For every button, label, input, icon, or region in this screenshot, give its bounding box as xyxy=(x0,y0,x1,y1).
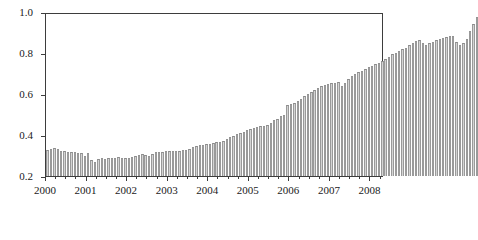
bar xyxy=(351,76,353,176)
bar xyxy=(361,71,363,176)
x-tick-minor xyxy=(258,177,259,179)
bar xyxy=(57,149,59,176)
y-tick-label: 0.8 xyxy=(7,48,33,59)
bar xyxy=(337,82,339,176)
bar xyxy=(229,137,231,176)
bar xyxy=(205,144,207,176)
bar xyxy=(286,105,288,176)
bar xyxy=(175,151,177,176)
bar xyxy=(324,85,326,176)
bar xyxy=(307,94,309,176)
bar xyxy=(94,162,96,176)
bar xyxy=(388,57,390,176)
x-tick-minor xyxy=(157,177,158,179)
bar xyxy=(371,66,373,176)
bar xyxy=(168,151,170,176)
bar xyxy=(222,141,224,176)
bar xyxy=(124,158,126,176)
y-tick xyxy=(41,54,45,55)
bar xyxy=(452,36,454,176)
bar xyxy=(226,139,228,176)
bar xyxy=(412,43,414,176)
bar xyxy=(313,90,315,177)
bar xyxy=(283,115,285,176)
bar xyxy=(354,74,356,177)
x-tick-minor xyxy=(238,177,239,179)
y-tick-label: 0.2 xyxy=(7,171,33,182)
bar xyxy=(131,157,133,176)
bar xyxy=(185,150,187,176)
bar xyxy=(310,92,312,176)
x-tick-minor xyxy=(319,177,320,179)
x-tick-minor xyxy=(146,177,147,179)
bar xyxy=(121,158,123,176)
x-tick-label: 2005 xyxy=(231,185,265,196)
bar xyxy=(67,152,69,176)
bar xyxy=(50,149,52,176)
bar xyxy=(172,151,174,176)
y-tick-label: 0.6 xyxy=(7,89,33,100)
bar xyxy=(384,59,386,176)
bar xyxy=(263,126,265,176)
bar xyxy=(104,159,106,176)
bar xyxy=(253,128,255,176)
x-tick-label: 2002 xyxy=(109,185,143,196)
x-tick-minor xyxy=(309,177,310,179)
bar xyxy=(381,61,383,176)
x-tick-label: 2007 xyxy=(312,185,346,196)
bar xyxy=(246,130,248,176)
bar xyxy=(469,31,471,176)
bar xyxy=(347,79,349,176)
bar xyxy=(209,144,211,176)
bar xyxy=(155,152,157,176)
bar xyxy=(425,45,427,176)
bar xyxy=(243,132,245,176)
x-tick-major xyxy=(329,177,330,181)
x-tick-minor xyxy=(228,177,229,179)
bar xyxy=(114,158,116,176)
bar xyxy=(317,88,319,176)
bar xyxy=(148,156,150,176)
bar xyxy=(53,148,55,176)
x-tick-minor xyxy=(55,177,56,179)
bar xyxy=(111,158,113,176)
x-tick-major xyxy=(126,177,127,181)
x-tick-minor xyxy=(278,177,279,179)
bar xyxy=(439,39,441,176)
x-tick-minor xyxy=(339,177,340,179)
x-tick-minor xyxy=(349,177,350,179)
bar xyxy=(455,42,457,176)
bar xyxy=(374,64,376,176)
x-tick-minor xyxy=(299,177,300,179)
bar xyxy=(344,83,346,176)
bar xyxy=(445,37,447,176)
bar xyxy=(70,152,72,176)
bar xyxy=(138,155,140,176)
bar xyxy=(422,43,424,176)
bar xyxy=(46,150,48,176)
bar xyxy=(428,43,430,176)
x-tick-minor xyxy=(116,177,117,179)
bar xyxy=(418,40,420,176)
bar xyxy=(462,43,464,176)
bar xyxy=(364,69,366,176)
x-tick-label: 2003 xyxy=(150,185,184,196)
bar xyxy=(341,86,343,176)
bar xyxy=(117,157,119,176)
bar xyxy=(60,151,62,176)
bar xyxy=(158,152,160,176)
bar xyxy=(249,129,251,176)
bar xyxy=(101,158,103,176)
bar xyxy=(107,158,109,176)
bar xyxy=(84,156,86,177)
bar xyxy=(77,153,79,176)
bar xyxy=(405,48,407,176)
x-tick-major xyxy=(45,177,46,181)
x-tick-major xyxy=(207,177,208,181)
bar xyxy=(134,156,136,176)
x-tick-minor xyxy=(136,177,137,179)
y-tick xyxy=(41,136,45,137)
bar xyxy=(87,153,89,176)
bar xyxy=(232,136,234,176)
x-tick-minor xyxy=(177,177,178,179)
